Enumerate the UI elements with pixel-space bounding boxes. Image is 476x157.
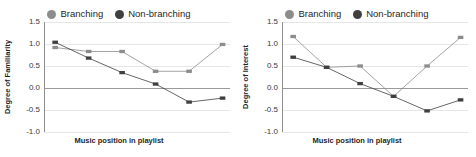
legend-dot-branching-icon (285, 10, 294, 19)
series-layer (44, 22, 230, 132)
legend-dot-non-branching-icon (115, 10, 124, 19)
y-tick-label: 1.0 (252, 40, 278, 48)
legend-entry[interactable]: Branching (285, 9, 341, 19)
legend-dot-non-branching-icon (353, 10, 362, 19)
chart-panel-familiarity: BranchingNon-branchingDegree of Familiar… (0, 0, 238, 157)
series-line (55, 42, 222, 102)
data-point-marker (186, 70, 192, 73)
legend-entry[interactable]: Non-branching (115, 9, 190, 19)
y-tick-label: 0.0 (14, 84, 40, 92)
data-point-marker (220, 43, 226, 46)
plot-canvas (44, 22, 230, 132)
plot-canvas (282, 22, 468, 132)
series-line (293, 57, 460, 111)
gridline (44, 132, 230, 133)
y-axis-ticks: 1.51.00.50.0-0.5-1.0 (14, 22, 40, 132)
data-point-marker (52, 46, 58, 49)
data-point-marker (52, 41, 58, 44)
legend-label: Non-branching (366, 9, 428, 19)
data-point-marker (153, 70, 159, 73)
plot-area: Degree of Interest1.51.00.50.0-0.5-1.0 (238, 22, 476, 132)
y-tick-label: 1.5 (252, 18, 278, 26)
plot-area: Degree of Familiarity1.51.00.50.0-0.5-1.… (0, 22, 238, 132)
y-tick-label: -1.0 (252, 128, 278, 136)
data-point-marker (357, 82, 363, 85)
series-line (55, 44, 222, 71)
y-tick-label: 0.5 (252, 62, 278, 70)
legend-dot-branching-icon (47, 10, 56, 19)
data-point-marker (458, 98, 464, 101)
y-tick-label: -0.5 (14, 106, 40, 114)
data-point-marker (86, 56, 92, 59)
data-point-marker (153, 82, 159, 85)
data-point-marker (290, 56, 296, 59)
x-axis-title: Music position in playlist (238, 136, 476, 145)
legend-entry[interactable]: Branching (47, 9, 103, 19)
figure: BranchingNon-branchingDegree of Familiar… (0, 0, 476, 157)
chart-panel-interest: BranchingNon-branchingDegree of Interest… (238, 0, 476, 157)
y-axis-ticks: 1.51.00.50.0-0.5-1.0 (252, 22, 278, 132)
data-point-marker (391, 95, 397, 98)
data-point-marker (186, 100, 192, 103)
y-tick-label: 0.5 (14, 62, 40, 70)
legend-entry[interactable]: Non-branching (353, 9, 428, 19)
gridline (282, 132, 468, 133)
data-point-marker (357, 64, 363, 67)
y-tick-label: -1.0 (14, 128, 40, 136)
y-axis-title: Degree of Familiarity (2, 22, 14, 132)
data-point-marker (86, 50, 92, 53)
y-axis-title: Degree of Interest (240, 22, 252, 132)
legend-label: Non-branching (128, 9, 190, 19)
data-point-marker (324, 66, 330, 69)
y-tick-label: 1.5 (14, 18, 40, 26)
data-point-marker (424, 64, 430, 67)
data-point-marker (119, 71, 125, 74)
x-axis-title: Music position in playlist (0, 136, 238, 145)
series-layer (282, 22, 468, 132)
data-point-marker (220, 96, 226, 99)
data-point-marker (458, 36, 464, 39)
y-tick-label: 1.0 (14, 40, 40, 48)
data-point-marker (424, 109, 430, 112)
legend-label: Branching (60, 9, 103, 19)
data-point-marker (290, 35, 296, 38)
legend-label: Branching (298, 9, 341, 19)
y-tick-label: -0.5 (252, 106, 278, 114)
series-line (293, 37, 460, 97)
data-point-marker (119, 50, 125, 53)
y-tick-label: 0.0 (252, 84, 278, 92)
